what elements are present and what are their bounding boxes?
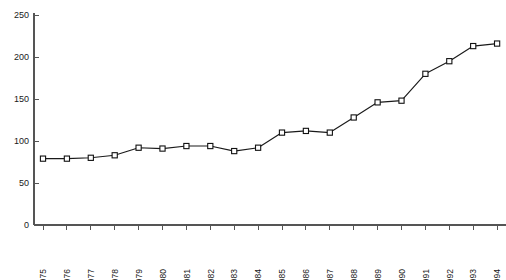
data-point-marker [88, 155, 93, 160]
data-point-marker [40, 156, 45, 161]
data-point-marker [160, 146, 165, 151]
chart-canvas: 050100150200250 197519761977197819791980… [0, 0, 506, 280]
series-line-path [43, 44, 497, 159]
data-point-marker [327, 130, 332, 135]
x-tick-label: 1993 [468, 269, 478, 280]
data-point-marker [303, 128, 308, 133]
x-tick-label: 1980 [158, 269, 168, 280]
data-point-marker [399, 98, 404, 103]
data-series [40, 41, 499, 161]
x-tick-label: 1984 [253, 269, 263, 280]
data-point-marker [112, 153, 117, 158]
data-point-marker [64, 156, 69, 161]
data-point-marker [471, 43, 476, 48]
x-tick-label: 1976 [62, 269, 72, 280]
y-tick-label: 0 [24, 220, 29, 230]
y-tick-label: 200 [14, 52, 29, 62]
data-point-marker [256, 145, 261, 150]
y-tick-label: 250 [14, 10, 29, 20]
data-point-marker [351, 115, 356, 120]
x-tick-label: 1994 [492, 269, 502, 280]
data-point-marker [447, 59, 452, 64]
data-point-marker [184, 143, 189, 148]
x-tick-label: 1982 [206, 269, 216, 280]
y-tick-label: 100 [14, 136, 29, 146]
x-tick-label: 1977 [86, 269, 96, 280]
x-tick-label: 1981 [182, 269, 192, 280]
y-axis: 050100150200250 [14, 10, 39, 230]
x-tick-label: 1990 [397, 269, 407, 280]
x-tick-label: 1986 [301, 269, 311, 280]
line-chart-figure: 050100150200250 197519761977197819791980… [0, 0, 506, 280]
data-point-marker [208, 143, 213, 148]
y-tick-label: 150 [14, 94, 29, 104]
x-tick-label: 1991 [421, 269, 431, 280]
x-tick-label: 1979 [134, 269, 144, 280]
x-tick-label: 1989 [373, 269, 383, 280]
data-point-marker [232, 148, 237, 153]
x-tick-label: 1985 [277, 269, 287, 280]
x-tick-label: 1983 [229, 269, 239, 280]
data-point-marker [495, 41, 500, 46]
data-point-marker [136, 145, 141, 150]
y-tick-label: 50 [19, 178, 29, 188]
x-tick-label: 1978 [110, 269, 120, 280]
x-tick-label: 1992 [445, 269, 455, 280]
data-point-marker [279, 130, 284, 135]
x-tick-label: 1975 [38, 269, 48, 280]
data-point-marker [423, 71, 428, 76]
x-axis: 1975197619771978197919801981198219831984… [34, 225, 506, 280]
x-tick-label: 1987 [325, 269, 335, 280]
x-tick-label: 1988 [349, 269, 359, 280]
data-point-marker [375, 100, 380, 105]
